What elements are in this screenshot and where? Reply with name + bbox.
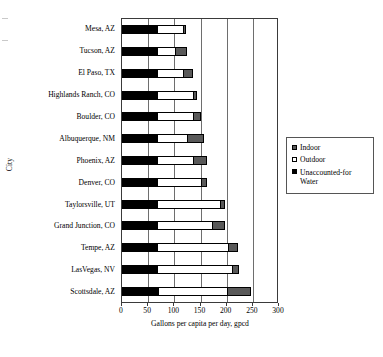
legend: Indoor Outdoor Unaccounted-for Water — [286, 137, 374, 194]
stacked-bar[interactable] — [122, 47, 187, 56]
y-axis-tick-label: Tempe, AZ — [18, 237, 118, 259]
water-use-bar-chart: City Mesa, AZTucson, AZEl Paso, TXHighla… — [0, 0, 383, 357]
bar-segment — [122, 69, 157, 78]
bar-segment — [122, 25, 157, 34]
bar-row[interactable] — [122, 63, 277, 85]
x-tick-label: 50 — [143, 306, 151, 315]
bar-segment — [193, 156, 208, 165]
stacked-bar[interactable] — [122, 200, 225, 209]
stacked-bar[interactable] — [122, 156, 207, 165]
scan-artifact — [2, 18, 8, 19]
stacked-bar[interactable] — [122, 178, 207, 187]
bar-segment — [157, 91, 193, 100]
legend-label-unaccounted-for-water: Unaccounted-for Water — [300, 168, 368, 187]
bar-segment — [157, 200, 220, 209]
bar-row[interactable] — [122, 41, 277, 63]
outdoor-swatch-icon — [292, 157, 297, 162]
legend-item-outdoor: Outdoor — [292, 155, 368, 164]
bar-segment — [122, 134, 157, 143]
legend-item-indoor: Indoor — [292, 143, 368, 152]
bar-segment — [122, 91, 157, 100]
y-axis-tick-label: Mesa, AZ — [18, 18, 118, 40]
y-axis-title: City — [5, 145, 14, 185]
x-tick-label: 300 — [272, 306, 283, 315]
y-axis-tick-label: Grand Junction, CO — [18, 215, 118, 237]
y-axis-tick-label: LasVegas, NV — [18, 259, 118, 281]
x-tick-label: 0 — [119, 306, 123, 315]
bar-segment — [193, 91, 198, 100]
bar-segment — [157, 156, 193, 165]
y-axis-tick-label: Taylorsville, UT — [18, 193, 118, 215]
y-axis-tick-label: Boulder, CO — [18, 106, 118, 128]
bar-segment — [157, 243, 228, 252]
unaccounted-for-water-swatch-icon — [292, 169, 297, 174]
x-axis-ticks: 050100150200250300 — [121, 303, 278, 319]
y-axis-category-labels: Mesa, AZTucson, AZEl Paso, TXHighlands R… — [18, 18, 118, 303]
bar-segment — [158, 287, 228, 296]
bar-segment — [227, 287, 251, 296]
bar-segment — [183, 25, 186, 34]
stacked-bar[interactable] — [122, 265, 239, 274]
bar-segment — [157, 265, 232, 274]
legend-label-indoor: Indoor — [300, 143, 320, 152]
bar-row[interactable] — [122, 19, 277, 41]
bar-row[interactable] — [122, 280, 277, 302]
stacked-bar[interactable] — [122, 69, 193, 78]
legend-item-unaccounted-for-water: Unaccounted-for Water — [292, 168, 368, 187]
bar-segment — [122, 156, 157, 165]
y-axis-tick-label: Albuquerque, NM — [18, 128, 118, 150]
y-axis-tick-label: Phoenix, AZ — [18, 150, 118, 172]
legend-label-outdoor: Outdoor — [300, 155, 325, 164]
bar-segment — [157, 112, 193, 121]
bar-row[interactable] — [122, 258, 277, 280]
bar-segment — [232, 265, 239, 274]
bar-segment — [122, 112, 157, 121]
bar-segment — [122, 200, 157, 209]
bar-segment — [122, 265, 157, 274]
stacked-bar[interactable] — [122, 91, 197, 100]
bar-segment — [157, 221, 212, 230]
bar-row[interactable] — [122, 193, 277, 215]
bar-segment — [122, 178, 157, 187]
plot-area — [121, 18, 278, 303]
bar-row[interactable] — [122, 171, 277, 193]
bar-row[interactable] — [122, 84, 277, 106]
bar-row[interactable] — [122, 128, 277, 150]
bar-segment — [122, 47, 157, 56]
bar-segment — [157, 178, 201, 187]
stacked-bar[interactable] — [122, 243, 238, 252]
y-axis-tick-label: El Paso, TX — [18, 62, 118, 84]
bar-segment — [212, 221, 225, 230]
bar-segment — [157, 134, 187, 143]
stacked-bar[interactable] — [122, 221, 225, 230]
stacked-bar[interactable] — [122, 25, 186, 34]
bar-segment — [183, 69, 192, 78]
bar-segment — [157, 47, 175, 56]
bar-segment — [157, 69, 183, 78]
stacked-bar[interactable] — [122, 112, 201, 121]
bar-row[interactable] — [122, 106, 277, 128]
x-tick-label: 200 — [220, 306, 231, 315]
bar-row[interactable] — [122, 150, 277, 172]
y-axis-tick-label: Scottsdale, AZ — [18, 281, 118, 303]
bar-segment — [228, 243, 238, 252]
y-axis-tick-label: Denver, CO — [18, 171, 118, 193]
bar-row[interactable] — [122, 237, 277, 259]
bar-segment — [122, 287, 158, 296]
bar-segment — [193, 112, 201, 121]
stacked-bar[interactable] — [122, 134, 204, 143]
bar-row[interactable] — [122, 215, 277, 237]
x-tick-label: 250 — [246, 306, 257, 315]
indoor-swatch-icon — [292, 145, 297, 150]
bar-rows — [122, 19, 277, 302]
bar-segment — [122, 243, 157, 252]
scan-artifact — [2, 40, 8, 41]
x-tick-label: 100 — [168, 306, 179, 315]
x-tick-label: 150 — [194, 306, 205, 315]
bar-segment — [122, 221, 157, 230]
bar-segment — [220, 200, 225, 209]
stacked-bar[interactable] — [122, 287, 251, 296]
y-axis-tick-label: Highlands Ranch, CO — [18, 84, 118, 106]
x-axis-title: Gallons per capita per day, gpcd — [100, 319, 300, 328]
bar-segment — [175, 47, 187, 56]
